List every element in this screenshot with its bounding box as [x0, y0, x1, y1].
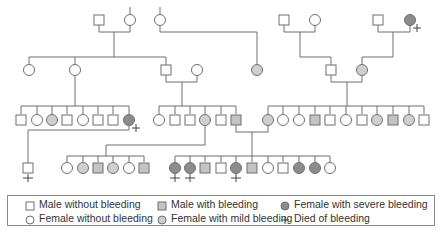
descent-line [300, 32, 331, 65]
legend-label: Female with severe bleeding [294, 198, 428, 210]
male-bleeding-symbol [388, 115, 398, 125]
male-bleeding-symbol [231, 115, 241, 125]
female-mild-symbol [47, 115, 58, 126]
legend-label: Died of bleeding [294, 212, 370, 224]
female-unaffected-symbol [310, 15, 321, 26]
legend-label: Female without bleeding [39, 212, 153, 224]
died-plus-icon [231, 174, 241, 182]
legend-female-severe: Female with severe bleeding [279, 198, 428, 211]
male-bleeding-symbol [247, 163, 257, 173]
died-plus-icon [185, 174, 195, 182]
male-unaffected-symbol [185, 115, 195, 125]
female-mild-symbol [404, 115, 415, 126]
male-unaffected-symbol [373, 15, 383, 25]
circle-dark-shaded-icon [279, 199, 291, 211]
marriage-line [378, 25, 410, 32]
male-unaffected-symbol [23, 163, 33, 173]
male-unaffected-symbol [357, 115, 367, 125]
female-severe-symbol [231, 163, 242, 174]
male-unaffected-symbol [325, 115, 335, 125]
legend-female-mild: Female with mild bleeding [156, 212, 292, 225]
female-severe-symbol [124, 115, 135, 126]
male-unaffected-symbol [161, 65, 171, 75]
female-mild-symbol [252, 65, 263, 76]
male-unaffected-symbol [216, 115, 226, 125]
female-mild-symbol [263, 115, 274, 126]
male-unaffected-symbol [108, 115, 118, 125]
pedigree-chart [0, 0, 446, 195]
legend-box: Male without bleeding Female without ble… [7, 195, 435, 226]
female-unaffected-symbol [341, 115, 352, 126]
female-unaffected-symbol [278, 115, 289, 126]
female-unaffected-symbol [155, 15, 166, 26]
female-mild-symbol [78, 163, 89, 174]
female-mild-symbol [372, 115, 383, 126]
male-bleeding-symbol [93, 163, 103, 173]
marriage-line [331, 75, 362, 82]
legend-female-none: Female without bleeding [24, 212, 153, 225]
square-shaded-icon [156, 199, 168, 211]
square-empty-icon [24, 199, 36, 211]
marriage-line [166, 75, 197, 82]
female-unaffected-symbol [78, 115, 89, 126]
legend-label: Male without bleeding [39, 198, 141, 210]
descent-line [362, 32, 393, 64]
marriage-line [284, 25, 315, 32]
male-unaffected-symbol [16, 115, 26, 125]
female-unaffected-symbol [294, 115, 305, 126]
legend-died: Died of bleeding [279, 212, 370, 225]
male-unaffected-symbol [94, 15, 104, 25]
female-unaffected-symbol [154, 115, 165, 126]
male-bleeding-symbol [139, 163, 149, 173]
female-unaffected-symbol [325, 163, 336, 174]
died-plus-icon [413, 24, 421, 32]
female-unaffected-symbol [70, 65, 81, 76]
male-unaffected-symbol [216, 163, 226, 173]
female-severe-symbol [310, 163, 321, 174]
female-unaffected-symbol [24, 65, 35, 76]
male-unaffected-symbol [419, 115, 429, 125]
female-unaffected-symbol [62, 163, 73, 174]
female-unaffected-symbol [192, 65, 203, 76]
male-unaffected-symbol [278, 163, 288, 173]
female-unaffected-symbol [263, 163, 274, 174]
marriage-line [236, 125, 268, 132]
female-severe-symbol [185, 163, 196, 174]
legend-male-bleeding: Male with bleeding [156, 198, 258, 211]
circle-light-shaded-icon [156, 213, 168, 225]
male-bleeding-symbol [310, 115, 320, 125]
female-mild-symbol [108, 163, 119, 174]
female-severe-symbol [170, 163, 181, 174]
female-severe-symbol [294, 163, 305, 174]
circle-empty-icon [24, 213, 36, 225]
male-bleeding-symbol [200, 163, 210, 173]
male-unaffected-symbol [170, 115, 180, 125]
female-severe-symbol [405, 15, 416, 26]
legend-male-none: Male without bleeding [24, 198, 141, 211]
male-unaffected-symbol [279, 15, 289, 25]
female-unaffected-symbol [125, 15, 136, 26]
legend-label: Male with bleeding [171, 198, 258, 210]
marriage-line [99, 25, 130, 32]
legend-label: Female with mild bleeding [171, 212, 292, 224]
female-unaffected-symbol [32, 115, 43, 126]
female-unaffected-symbol [124, 163, 135, 174]
died-plus-icon [23, 174, 33, 182]
female-mild-symbol [200, 115, 211, 126]
plus-icon [279, 213, 291, 225]
male-unaffected-symbol [93, 115, 103, 125]
male-unaffected-symbol [326, 65, 336, 75]
male-unaffected-symbol [62, 115, 72, 125]
died-plus-icon [132, 124, 140, 132]
descent-line [160, 25, 257, 64]
female-mild-symbol [357, 65, 368, 76]
died-plus-icon [170, 174, 180, 182]
